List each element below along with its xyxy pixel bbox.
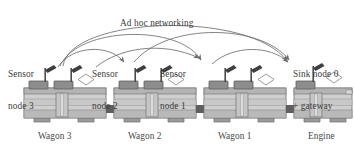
sink-node-label-line2: + gateway [293, 101, 339, 112]
caption-engine: Engine [308, 131, 335, 141]
sensor-node-1-label: Sensor node 1 [160, 48, 186, 132]
ad-hoc-networking-title: Ad hoc networking [120, 18, 193, 29]
antenna-head [225, 65, 237, 73]
sink-node-label-line1: Sink node 0 [293, 69, 339, 80]
antenna-head [251, 65, 263, 73]
sensor-enclosure [209, 81, 228, 89]
sensor-node-2-label: Sensor node 2 [92, 48, 118, 132]
sensor-node-1-label-line1: Sensor [160, 69, 186, 80]
sink-node-label: Sink node 0 + gateway [293, 48, 339, 132]
figure-canvas: Sensor node 3 Sensor node 2 Sensor node … [0, 0, 354, 155]
antenna-head [45, 65, 57, 73]
sensor-enclosure [119, 81, 138, 89]
sensor-node-2-label-line2: node 2 [92, 101, 118, 112]
sensor-enclosure [234, 81, 253, 89]
vehicle-wagon1 [204, 65, 295, 122]
caption-wagon-3: Wagon 3 [38, 131, 71, 141]
wagon-door-seam [151, 94, 154, 116]
sensor-node-3-label-line2: node 3 [8, 101, 34, 112]
engine-nose-step [346, 90, 352, 94]
diamond-marker [258, 74, 274, 85]
caption-wagon-1: Wagon 1 [218, 131, 251, 141]
sensor-node-3-label-line1: Sensor [8, 69, 34, 80]
antenna-head [71, 65, 83, 73]
sensor-node-2-label-line1: Sensor [92, 69, 118, 80]
sensor-node-1-label-line2: node 1 [160, 101, 186, 112]
sensor-enclosure [54, 81, 73, 89]
caption-wagon-2: Wagon 2 [128, 131, 161, 141]
wagon-door-seam [61, 94, 64, 116]
sensor-node-3-label: Sensor node 3 [8, 48, 34, 132]
wagon-door-seam [241, 94, 244, 116]
antenna-head [135, 65, 147, 73]
